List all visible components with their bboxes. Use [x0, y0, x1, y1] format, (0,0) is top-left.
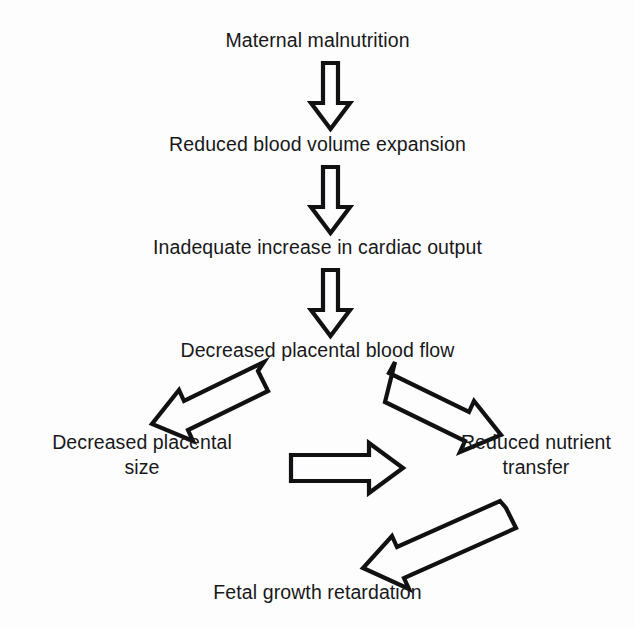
node-reduced-nutrient-transfer: Reduced nutrient transfer	[438, 430, 634, 480]
node-fetal-growth-retardation: Fetal growth retardation	[0, 580, 635, 605]
arrow-down-1	[311, 63, 350, 129]
flowchart-canvas: Maternal malnutrition Reduced blood volu…	[0, 0, 635, 628]
node-decreased-placental-blood-flow: Decreased placental blood flow	[0, 338, 635, 363]
node-maternal-malnutrition: Maternal malnutrition	[0, 28, 635, 53]
node-decreased-placental-size: Decreased placental size	[12, 430, 272, 480]
arrow-down-2	[311, 167, 350, 233]
arrow-down-3	[311, 270, 350, 336]
node-inadequate-increase-cardiac-output: Inadequate increase in cardiac output	[0, 235, 635, 260]
flowchart-arrow-layer	[0, 0, 635, 628]
arrow-down-left-2	[363, 501, 516, 589]
arrow-right-1	[291, 443, 403, 493]
node-reduced-blood-volume-expansion: Reduced blood volume expansion	[0, 132, 635, 157]
